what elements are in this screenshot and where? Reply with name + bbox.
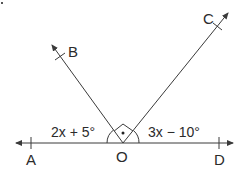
artifact-dot bbox=[1, 2, 3, 4]
tick-c bbox=[213, 23, 222, 30]
label-d: D bbox=[214, 151, 225, 168]
right-angle-marker bbox=[114, 124, 133, 131]
arc-cod bbox=[134, 131, 140, 144]
right-angle-dot bbox=[122, 132, 125, 135]
tick-b bbox=[55, 53, 65, 60]
label-o: O bbox=[116, 148, 128, 165]
arc-aob bbox=[107, 130, 114, 143]
label-c: C bbox=[203, 10, 214, 27]
angle-diagram: B C A O D 2x + 5° 3x − 10° bbox=[0, 0, 240, 175]
angle-cod-label: 3x − 10° bbox=[148, 124, 200, 140]
label-a: A bbox=[26, 151, 36, 168]
label-b: B bbox=[68, 43, 78, 60]
angle-aob-label: 2x + 5° bbox=[51, 124, 95, 140]
